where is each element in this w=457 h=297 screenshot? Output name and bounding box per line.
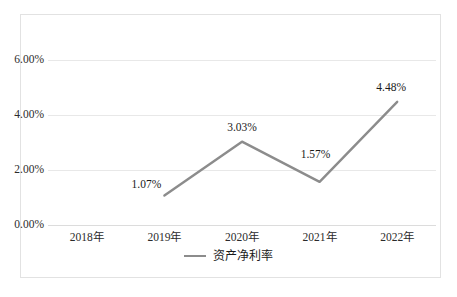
x-axis-tick-label-2019: 2019年 — [126, 228, 204, 246]
y-axis-tick-label-0: 0.00% — [14, 219, 48, 231]
x-axis-tick-label-2020: 2020年 — [203, 228, 281, 246]
legend-line-swatch-icon — [184, 255, 206, 258]
y-axis-tick-label-4: 4.00% — [14, 109, 48, 121]
data-label-2019: 1.07% — [132, 178, 162, 190]
x-axis-tick-label-2018: 2018年 — [48, 228, 126, 246]
data-label-2021: 1.57% — [301, 148, 331, 160]
legend-item-label: 资产净利率 — [213, 250, 273, 262]
gridline-0 — [48, 225, 436, 226]
x-axis: 2018年 2019年 2020年 2021年 2022年 — [48, 228, 436, 246]
x-axis-tick-label-2022: 2022年 — [358, 228, 436, 246]
y-axis-tick-label-6: 6.00% — [14, 54, 48, 66]
figure: 6.00% 4.00% 2.00% 0.00% 1.07% 3.03% 1.57… — [0, 0, 457, 297]
data-label-2020: 3.03% — [227, 121, 257, 133]
x-axis-tick-label-2021: 2021年 — [281, 228, 359, 246]
y-axis-tick-label-2: 2.00% — [14, 164, 48, 176]
legend: 资产净利率 — [0, 250, 457, 262]
data-label-2022: 4.48% — [376, 81, 406, 93]
figure-caption — [0, 288, 457, 297]
plot-area: 6.00% 4.00% 2.00% 0.00% 1.07% 3.03% 1.57… — [48, 60, 436, 225]
